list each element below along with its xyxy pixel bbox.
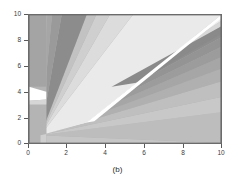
ytick-label-4: 4: [1, 89, 21, 96]
ytick-mark-10: [24, 14, 28, 15]
xtick-label-4: 4: [95, 150, 115, 157]
ytick-mark-2: [24, 118, 28, 119]
xtick-mark-2: [66, 144, 67, 148]
xtick-mark-0: [28, 144, 29, 148]
ytick-mark-8: [24, 40, 28, 41]
ytick-label-6: 6: [1, 63, 21, 70]
ytick-label-8: 8: [1, 37, 21, 44]
xtick-label-2: 2: [56, 150, 76, 157]
ytick-mark-6: [24, 66, 28, 67]
xtick-label-6: 6: [134, 150, 154, 157]
plot-area: [28, 14, 222, 144]
contour-region-left-strip-upper: [29, 15, 46, 87]
figure-panel: 10 8 6 4 2 0 0 2 4 6 8 10 (b): [0, 0, 235, 191]
ytick-label-10: 10: [1, 11, 21, 18]
figure-caption: (b): [0, 165, 235, 174]
xtick-mark-10: [221, 144, 222, 148]
xtick-mark-8: [183, 144, 184, 148]
xtick-label-0: 0: [18, 150, 38, 157]
contour-levels: [29, 15, 221, 143]
ytick-label-0: 0: [1, 140, 21, 147]
xtick-mark-6: [144, 144, 145, 148]
contour-plot: [28, 14, 222, 144]
ytick-label-2: 2: [1, 115, 21, 122]
xtick-mark-4: [105, 144, 106, 148]
ytick-mark-4: [24, 92, 28, 93]
xtick-label-10: 10: [211, 150, 231, 157]
contour-region-left-focus-bright: [41, 134, 47, 143]
xtick-label-8: 8: [173, 150, 193, 157]
